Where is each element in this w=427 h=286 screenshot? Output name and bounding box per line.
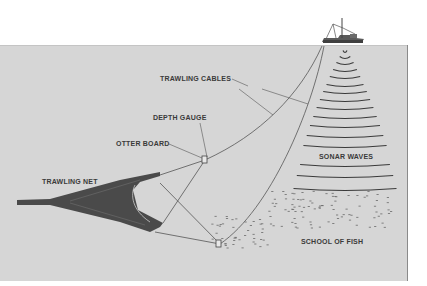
fish — [253, 234, 255, 235]
fish — [332, 223, 334, 224]
fish — [390, 211, 392, 212]
fish — [232, 227, 234, 228]
fish — [336, 215, 338, 216]
fish — [359, 206, 361, 207]
fish — [281, 226, 283, 227]
fish — [274, 199, 276, 200]
trawling-diagram: TRAWLING CABLES DEPTH GAUGE OTTER BOARD … — [0, 0, 427, 286]
fish — [346, 209, 348, 210]
fish — [332, 193, 334, 194]
fish — [303, 207, 305, 208]
otter-board-lower-icon — [216, 240, 221, 247]
fish — [331, 205, 333, 206]
fish — [294, 218, 296, 219]
fish — [261, 232, 263, 233]
fish — [388, 210, 390, 211]
fish — [319, 208, 321, 209]
fish — [321, 205, 323, 206]
fish — [314, 209, 316, 210]
fish — [387, 202, 389, 203]
fish — [294, 223, 296, 224]
fish — [375, 212, 377, 213]
fish — [221, 238, 223, 239]
fish — [367, 191, 369, 192]
fish — [253, 242, 255, 243]
fish — [273, 225, 275, 226]
fish — [271, 191, 273, 192]
fish — [268, 211, 270, 212]
fish — [373, 217, 375, 218]
fish — [253, 221, 255, 222]
fish — [293, 207, 295, 208]
fish — [259, 246, 261, 247]
fish — [215, 216, 217, 217]
fish — [311, 228, 313, 229]
fish — [263, 240, 265, 241]
fish — [335, 196, 337, 197]
fish — [219, 226, 221, 227]
fish — [220, 224, 222, 225]
fish — [275, 203, 277, 204]
fish — [254, 244, 256, 245]
fish — [217, 225, 219, 226]
fish — [291, 222, 293, 223]
fish — [309, 201, 311, 202]
fish — [226, 218, 228, 219]
fish — [235, 219, 237, 220]
label-trawling-cables: TRAWLING CABLES — [160, 75, 231, 82]
water-surface-line — [0, 45, 408, 46]
fish — [378, 216, 380, 217]
fish — [226, 216, 228, 217]
fish — [348, 214, 350, 215]
fish — [343, 214, 345, 215]
fish — [288, 211, 290, 212]
fish — [285, 199, 287, 200]
fish — [250, 225, 252, 226]
fish — [366, 196, 368, 197]
fish — [376, 200, 378, 201]
fish — [262, 229, 264, 230]
fish — [308, 206, 310, 207]
fish — [310, 224, 312, 225]
fish — [380, 214, 382, 215]
fish — [270, 224, 272, 225]
fish — [284, 209, 286, 210]
fish — [332, 196, 334, 197]
fish — [222, 224, 224, 225]
fish — [291, 193, 293, 194]
fish — [224, 244, 226, 245]
fish — [225, 245, 227, 246]
label-sonar-waves: SONAR WAVES — [319, 153, 373, 160]
fish — [231, 219, 233, 220]
fish — [245, 222, 247, 223]
fish — [364, 197, 366, 198]
fish — [348, 195, 350, 196]
fish — [292, 199, 294, 200]
fish — [293, 193, 295, 194]
fish — [247, 230, 249, 231]
fish — [216, 233, 218, 234]
fish — [318, 207, 320, 208]
fish — [272, 203, 274, 204]
fish — [211, 224, 213, 225]
fish — [341, 217, 343, 218]
label-depth-gauge: DEPTH GAUGE — [153, 114, 207, 121]
fish — [302, 217, 304, 218]
fish — [285, 194, 287, 195]
fish — [267, 245, 269, 246]
fish — [374, 206, 376, 207]
fish — [319, 206, 321, 207]
otter-board-upper-icon — [202, 156, 207, 163]
fish — [260, 239, 262, 240]
fish — [309, 222, 311, 223]
fish — [233, 240, 235, 241]
label-trawling-net: TRAWLING NET — [42, 178, 98, 185]
fish — [369, 227, 371, 228]
fish — [337, 218, 339, 219]
fish — [291, 209, 293, 210]
fish — [382, 223, 384, 224]
fish — [319, 227, 321, 228]
fish — [302, 199, 304, 200]
fish — [234, 237, 236, 238]
fish — [291, 204, 293, 205]
